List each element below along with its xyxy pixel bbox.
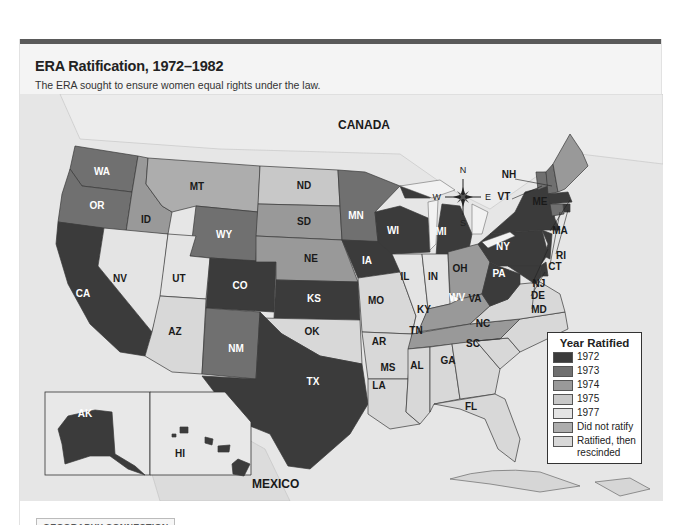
- compass-e: E: [485, 192, 491, 202]
- label-NH: NH: [502, 169, 516, 180]
- label-OR: OR: [90, 200, 106, 211]
- alaska-inset: [45, 392, 150, 475]
- map-card: ERA Ratification, 1972–1982 The ERA soug…: [19, 39, 662, 525]
- label-LA: LA: [372, 380, 385, 391]
- legend-swatch: [553, 408, 573, 419]
- label-NC: NC: [476, 318, 490, 329]
- legend-item-1977: 1977: [553, 407, 636, 419]
- label-RI: RI: [556, 250, 566, 261]
- label-VA: VA: [468, 293, 481, 304]
- label-WY: WY: [216, 229, 232, 240]
- label-TX: TX: [307, 376, 320, 387]
- label-TN: TN: [409, 325, 422, 336]
- compass-s: S: [460, 218, 466, 228]
- canada-label: CANADA: [338, 118, 390, 132]
- state-CT[interactable]: [550, 204, 564, 216]
- map-title: ERA Ratification, 1972–1982: [35, 58, 223, 74]
- legend-item-1975: 1975: [553, 393, 636, 405]
- legend-item-1974: 1974: [553, 379, 636, 391]
- label-IN: IN: [428, 271, 438, 282]
- legend-swatch: [553, 352, 573, 363]
- legend-label: Ratified, then rescinded: [577, 435, 636, 459]
- label-MD: MD: [531, 304, 547, 315]
- label-NV: NV: [113, 273, 127, 284]
- label-WV: WV: [449, 292, 465, 303]
- label-CO: CO: [233, 280, 248, 291]
- legend-item-1973: 1973: [553, 365, 636, 377]
- top-rule: [20, 39, 661, 44]
- legend-item-1972: 1972: [553, 351, 636, 363]
- label-ND: ND: [297, 180, 311, 191]
- label-ID: ID: [141, 214, 151, 225]
- label-PA: PA: [492, 268, 505, 279]
- label-VT: VT: [498, 191, 511, 202]
- legend-item-did-not-ratify: Did not ratify: [553, 421, 636, 433]
- label-ME: ME: [533, 196, 548, 207]
- label-GA: GA: [441, 355, 456, 366]
- legend-swatch: [553, 380, 573, 391]
- legend-label: 1972: [577, 351, 599, 363]
- legend-label: 1975: [577, 393, 599, 405]
- label-WI: WI: [387, 225, 399, 236]
- label-KS: KS: [307, 293, 321, 304]
- label-AL: AL: [410, 360, 423, 371]
- mexico-label: MEXICO: [252, 477, 299, 491]
- label-WA: WA: [94, 166, 110, 177]
- map-subtitle: The ERA sought to ensure women equal rig…: [35, 79, 320, 91]
- legend-item-rescinded: Ratified, then rescinded: [553, 435, 636, 459]
- legend-label: Did not ratify: [577, 421, 633, 433]
- legend-label: 1973: [577, 365, 599, 377]
- legend-swatch: [553, 422, 573, 433]
- legend-title: Year Ratified: [553, 337, 636, 349]
- state-MS[interactable]: [406, 347, 430, 424]
- label-FL: FL: [465, 401, 477, 412]
- hawaii-inset: [150, 392, 251, 476]
- label-AR: AR: [372, 336, 387, 347]
- label-CA: CA: [76, 288, 90, 299]
- legend-swatch: [553, 394, 573, 405]
- label-NY: NY: [496, 241, 510, 252]
- legend-label: 1977: [577, 407, 599, 419]
- label-KY: KY: [417, 304, 431, 315]
- legend-label: 1974: [577, 379, 599, 391]
- label-SD: SD: [297, 216, 311, 227]
- label-MO: MO: [368, 295, 384, 306]
- label-NE: NE: [304, 253, 318, 264]
- label-IA: IA: [362, 255, 372, 266]
- geography-connection-tag: GEOGRAPHY CONNECTION: [36, 518, 175, 525]
- compass-n: N: [460, 165, 467, 175]
- label-MS: MS: [381, 362, 396, 373]
- label-OK: OK: [305, 326, 321, 337]
- legend-swatch: [553, 366, 573, 377]
- label-MT: MT: [190, 181, 204, 192]
- legend: Year Ratified 1972 1973 1974 1975 1977 D…: [547, 332, 642, 464]
- compass-w: W: [433, 192, 442, 202]
- label-NM: NM: [228, 343, 244, 354]
- label-AZ: AZ: [168, 326, 181, 337]
- label-AK: AK: [78, 408, 93, 419]
- label-SC: SC: [466, 338, 480, 349]
- label-MA: MA: [552, 225, 568, 236]
- label-MI: MI: [435, 226, 446, 237]
- label-UT: UT: [172, 273, 185, 284]
- label-IL: IL: [401, 271, 410, 282]
- label-OH: OH: [453, 263, 468, 274]
- label-HI: HI: [175, 448, 185, 459]
- label-MN: MN: [348, 210, 364, 221]
- legend-swatch: [553, 436, 573, 447]
